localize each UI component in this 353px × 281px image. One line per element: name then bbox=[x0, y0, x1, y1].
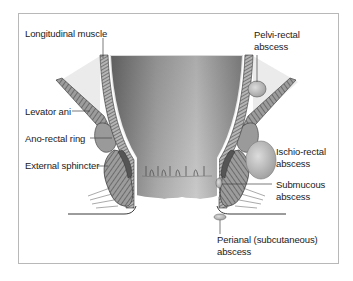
label-ischio-rectal-1: Ischio-rectal bbox=[276, 146, 326, 157]
label-pelvi-rectal-1: Pelvi-rectal bbox=[254, 29, 300, 40]
label-levator-ani: Levator ani bbox=[25, 106, 71, 117]
label-ischio-rectal-2: abscess bbox=[276, 158, 310, 169]
label-external-sphincter: External sphincter bbox=[25, 160, 99, 171]
pelvi-rectal-abscess bbox=[248, 81, 266, 97]
label-pelvi-rectal-2: abscess bbox=[254, 41, 288, 52]
perianal-abscess bbox=[214, 214, 226, 220]
label-ano-rectal-ring: Ano-rectal ring bbox=[25, 133, 85, 144]
ischio-rectal-abscess bbox=[246, 141, 276, 179]
label-submucous-2: abscess bbox=[276, 191, 310, 202]
label-perianal-2: abscess bbox=[217, 246, 251, 257]
label-longitudinal-muscle: Longitudinal muscle bbox=[25, 28, 107, 39]
submucous-abscess bbox=[216, 178, 222, 188]
skin-outline-right bbox=[217, 206, 286, 214]
label-perianal-1: Perianal (subcutaneous) bbox=[217, 234, 318, 245]
label-submucous-1: Submucous bbox=[276, 179, 325, 190]
